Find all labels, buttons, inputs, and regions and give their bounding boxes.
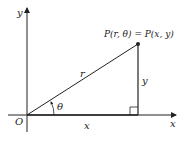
polar-coordinates-diagram: y x O P(r, θ) = P(x, y) r y x θ bbox=[0, 0, 189, 144]
angle-label: θ bbox=[57, 101, 63, 112]
x-axis-label: x bbox=[170, 118, 176, 129]
radius-segment bbox=[27, 44, 138, 115]
vertical-length-label: y bbox=[141, 75, 148, 86]
right-angle-marker bbox=[130, 107, 138, 115]
origin-label: O bbox=[15, 116, 23, 127]
y-axis-label: y bbox=[16, 7, 23, 18]
point-label: P(r, θ) = P(x, y) bbox=[103, 29, 174, 39]
point-p bbox=[136, 42, 140, 46]
horizontal-length-label: x bbox=[84, 120, 90, 131]
angle-arc bbox=[51, 102, 54, 115]
